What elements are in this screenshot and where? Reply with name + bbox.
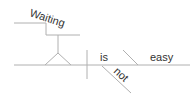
predicate-separator [123,50,138,65]
gerund-word: Waiting [28,6,66,29]
modifier-word: not [112,65,131,84]
predicate-adjective-word: easy [150,51,174,63]
gerund-pedestal-line [14,23,80,35]
verb-word: is [100,51,108,63]
sentence-diagram: Waiting is easy not [0,0,195,101]
pedestal-triangle [45,53,71,65]
